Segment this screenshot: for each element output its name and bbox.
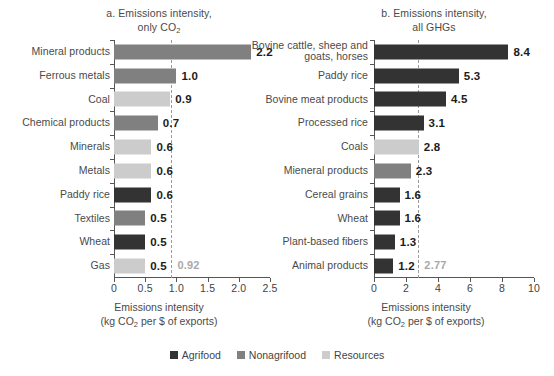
chart-subtitle: all GHGs: [314, 20, 554, 34]
reference-line-label: 0.92: [177, 259, 199, 271]
legend-label: Resources: [334, 349, 384, 361]
category-label: Metals: [0, 165, 110, 177]
bar: [374, 187, 400, 202]
bar: [374, 235, 395, 250]
chart-title-main: a. Emissions intensity,: [106, 7, 211, 19]
bar: [114, 140, 151, 155]
y-tick: [370, 88, 374, 89]
y-tick: [370, 254, 374, 255]
legend-item-agrifood: Agrifood: [170, 349, 221, 361]
bar-value-label: 2.8: [424, 141, 441, 153]
plot-area: 8.45.34.53.12.82.31.61.61.31.22.77: [374, 40, 534, 278]
y-tick: [370, 40, 374, 41]
x-tick-label: 1.0: [169, 282, 184, 294]
bar-row: 3.1: [374, 111, 534, 135]
bar-value-label: 0.5: [150, 236, 167, 248]
category-label: Gas: [0, 260, 110, 272]
bar: [114, 116, 158, 131]
y-tick: [110, 230, 114, 231]
bar-row: 1.6: [374, 183, 534, 207]
bar: [114, 259, 145, 274]
bar: [114, 68, 176, 83]
y-tick: [370, 230, 374, 231]
legend-label: Nonagrifood: [249, 349, 306, 361]
category-label: Animal products: [218, 260, 368, 272]
x-tick-label: 0: [371, 282, 377, 294]
bar-value-label: 3.1: [429, 117, 446, 129]
bar-row: 1.3: [374, 230, 534, 254]
category-label: Bovine cattle, sheep and goats, horses: [218, 40, 368, 63]
category-label: Plant-based fibers: [218, 236, 368, 248]
y-tick: [370, 135, 374, 136]
category-label: Bovine meat products: [218, 94, 368, 106]
bar-value-label: 1.3: [400, 236, 417, 248]
category-label: Ferrous metals: [0, 70, 110, 82]
x-axis-ticks: 0246810: [374, 278, 534, 283]
bar-value-label: 0.6: [156, 141, 173, 153]
bar: [114, 211, 145, 226]
category-label: Minerals: [0, 141, 110, 153]
category-label: Wheat: [0, 236, 110, 248]
chart-title: b. Emissions intensity,all GHGs: [280, 6, 554, 34]
category-label: Textiles: [0, 213, 110, 225]
bar-value-label: 0.7: [163, 117, 180, 129]
bar-value-label: 2.3: [416, 165, 433, 177]
bar: [114, 235, 145, 250]
x-tick-label: 4: [435, 282, 441, 294]
category-label: Coal: [0, 94, 110, 106]
bar-row: 1.6: [374, 207, 534, 231]
bar: [374, 44, 508, 59]
category-label: Coals: [218, 141, 368, 153]
bar: [374, 116, 424, 131]
y-tick: [370, 207, 374, 208]
y-tick: [370, 111, 374, 112]
bar: [374, 211, 400, 226]
x-tick-label: 0: [111, 282, 117, 294]
y-tick: [370, 64, 374, 65]
reference-line-label: 2.77: [424, 259, 446, 271]
bar: [114, 187, 151, 202]
bar-value-label: 0.9: [175, 93, 192, 105]
y-tick: [370, 183, 374, 184]
category-label: Mineral products: [0, 46, 110, 58]
chart-title: a. Emissions intensity,only CO2: [0, 6, 280, 36]
bar-row: 8.4: [374, 40, 534, 64]
chart-panel-b-all-ghgs: b. Emissions intensity,all GHGsBovine ca…: [280, 0, 554, 340]
category-label: Paddy rice: [218, 70, 368, 82]
x-tick-label: 2.5: [262, 282, 277, 294]
bar-row: 4.5: [374, 88, 534, 112]
x-tick-label: 2: [403, 282, 409, 294]
category-label: Mieneral products: [218, 165, 368, 177]
legend-item-resources: Resources: [322, 349, 384, 361]
bar: [374, 140, 419, 155]
legend-label: Agrifood: [182, 349, 221, 361]
legend-swatch-icon: [170, 351, 178, 359]
y-tick: [110, 88, 114, 89]
bar: [374, 92, 446, 107]
bar-value-label: 0.6: [156, 165, 173, 177]
bar-value-label: 0.5: [150, 260, 167, 272]
x-axis-title-main: Emissions intensity: [114, 301, 203, 313]
legend-swatch-icon: [237, 351, 245, 359]
legend-swatch-icon: [322, 351, 330, 359]
chart-subtitle: only CO2: [38, 20, 280, 36]
bar: [374, 259, 393, 274]
y-tick: [110, 135, 114, 136]
x-tick-label: 1.5: [200, 282, 215, 294]
category-label: Processed rice: [218, 117, 368, 129]
x-axis-title: Emissions intensity(kg CO2 per $ of expo…: [280, 300, 554, 330]
x-tick-label: 10: [528, 282, 540, 294]
x-tick-label: 8: [499, 282, 505, 294]
y-tick: [110, 64, 114, 65]
category-label: Chemical products: [0, 117, 110, 129]
bar-value-label: 1.0: [181, 70, 198, 82]
y-tick: [110, 254, 114, 255]
category-label: Paddy rice: [0, 189, 110, 201]
x-axis-title-main: Emissions intensity: [381, 301, 470, 313]
bar-value-label: 4.5: [451, 93, 468, 105]
x-axis-title-units: (kg CO2 per $ of exports): [298, 314, 554, 330]
chart-title-main: b. Emissions intensity,: [381, 7, 486, 19]
bar-value-label: 1.2: [398, 260, 415, 272]
x-tick-label: 2.0: [231, 282, 246, 294]
y-tick: [110, 183, 114, 184]
